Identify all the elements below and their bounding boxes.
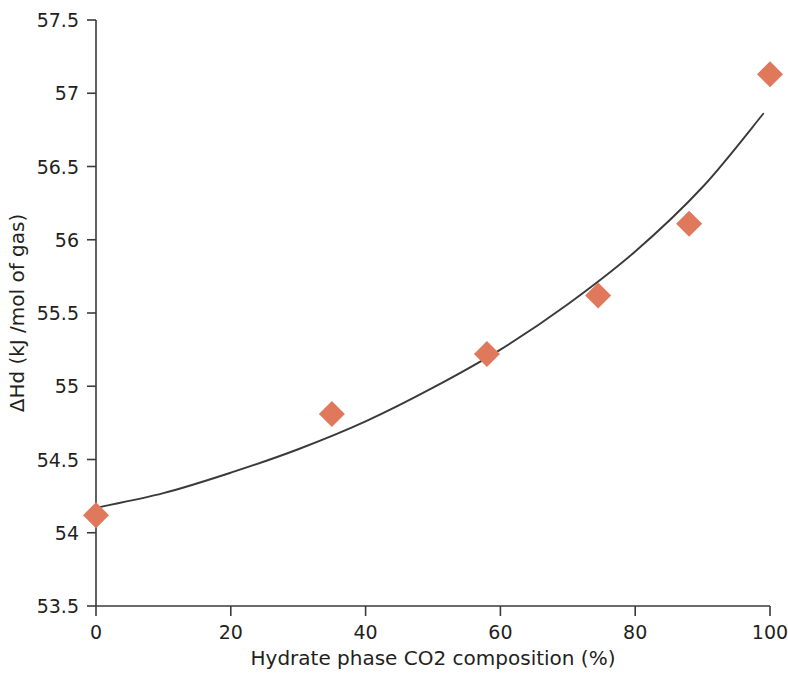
data-point-markers [83,61,783,528]
x-axis-title: Hydrate phase CO2 composition (%) [251,646,616,670]
y-tick-label: 56 [55,229,79,251]
x-tick-label: 0 [90,621,102,643]
trend-curve [96,114,763,508]
y-axis-title: ΔHd (kJ /mol of gas) [5,214,29,413]
x-tick-label: 20 [219,621,243,643]
data-point-marker [757,61,783,87]
y-tick-label: 53.5 [37,595,79,617]
chart-plot-area: 53.55454.55555.55656.55757.5 02040608010… [0,0,788,680]
x-tick-label: 60 [488,621,512,643]
chart-container: 53.55454.55555.55656.55757.5 02040608010… [0,0,788,680]
y-tick-label: 57 [55,82,79,104]
data-point-marker [585,282,611,308]
x-tick-label: 80 [623,621,647,643]
x-tick-label: 100 [752,621,788,643]
x-tick-label: 40 [354,621,378,643]
data-point-marker [319,401,345,427]
y-tick-label: 55 [55,375,79,397]
x-axis-ticks: 020406080100 [90,606,788,643]
y-tick-label: 55.5 [37,302,79,324]
y-tick-label: 54 [55,522,79,544]
y-tick-label: 56.5 [37,156,79,178]
y-tick-label: 54.5 [37,449,79,471]
y-axis-ticks: 53.55454.55555.55656.55757.5 [37,9,96,617]
y-tick-label: 57.5 [37,9,79,31]
data-point-marker [676,211,702,237]
